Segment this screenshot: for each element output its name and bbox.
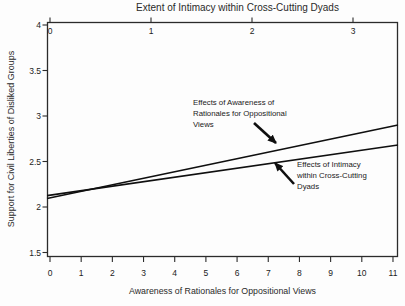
y-axis-tick-label: 1.5 bbox=[0, 248, 41, 258]
annotation-arrow-1 bbox=[275, 163, 294, 184]
annotation-awareness-label: Effects of Awareness ofRationales for Op… bbox=[193, 97, 287, 130]
annotation-line: Rationales for Oppositional bbox=[193, 108, 287, 119]
top-axis-tick-label: 2 bbox=[242, 26, 262, 36]
bottom-axis-tick-label: 11 bbox=[383, 268, 403, 278]
bottom-axis-tick-label: 5 bbox=[196, 268, 216, 278]
y-axis-tick-label: 2.5 bbox=[0, 157, 41, 167]
annotation-intimacy-label: Effects of Intimacywithin Cross-CuttingD… bbox=[297, 159, 367, 192]
bottom-axis-tick-label: 0 bbox=[40, 268, 60, 278]
y-axis-tick-label: 3.5 bbox=[0, 66, 41, 76]
bottom-axis-tick-label: 6 bbox=[227, 268, 247, 278]
bottom-axis-tick-label: 4 bbox=[165, 268, 185, 278]
top-axis-tick-label: 1 bbox=[141, 26, 161, 36]
annotation-line: within Cross-Cutting bbox=[297, 170, 367, 181]
bottom-axis-tick-label: 1 bbox=[71, 268, 91, 278]
annotation-line: Effects of Awareness of bbox=[193, 97, 287, 108]
bottom-axis-tick-label: 3 bbox=[134, 268, 154, 278]
y-axis-tick-label: 3 bbox=[0, 111, 41, 121]
bottom-axis-tick-label: 7 bbox=[258, 268, 278, 278]
annotation-line: Views bbox=[193, 119, 287, 130]
y-axis-tick-label: 2 bbox=[0, 202, 41, 212]
plot-border bbox=[48, 23, 398, 257]
bottom-axis-tick-label: 2 bbox=[102, 268, 122, 278]
annotation-line: Dyads bbox=[297, 181, 367, 192]
top-axis-tick-label: 3 bbox=[343, 26, 363, 36]
y-axis-tick-label: 4 bbox=[0, 20, 41, 30]
top-axis-tick-label: 0 bbox=[40, 26, 60, 36]
chart-figure: Extent of Intimacy within Cross-Cutting … bbox=[0, 0, 405, 306]
bottom-axis-tick-label: 10 bbox=[352, 268, 372, 278]
bottom-axis-tick-label: 8 bbox=[289, 268, 309, 278]
plot-canvas bbox=[0, 0, 405, 306]
bottom-axis-tick-label: 9 bbox=[321, 268, 341, 278]
annotation-line: Effects of Intimacy bbox=[297, 159, 367, 170]
